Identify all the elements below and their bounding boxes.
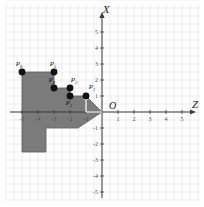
vertex-marker-p1[interactable]	[83, 93, 90, 100]
x-axis-tick-label: -1	[93, 125, 98, 131]
x-axis-tick-label: 4	[95, 45, 98, 51]
vertex-label-subscript: 3	[75, 80, 78, 85]
coordinate-plot: XZ54321-1-2-3-4-5-5-4-3-2-112345OP1P2P3P…	[0, 0, 204, 207]
z-axis-arrowhead	[190, 109, 196, 114]
x-axis-tick-label: 2	[95, 77, 98, 83]
x-axis-tick-label: -4	[93, 173, 98, 179]
x-axis-tick-label: -3	[93, 157, 98, 163]
figure-canvas: XZ54321-1-2-3-4-5-5-4-3-2-112345OP1P2P3P…	[0, 0, 204, 207]
vertex-label-subscript: 1	[93, 87, 95, 92]
z-axis-tick-label: 5	[181, 116, 184, 122]
z-axis-tick-label: -2	[68, 116, 73, 122]
x-axis-tick-label: -5	[93, 189, 98, 195]
z-axis-tick-label: -4	[36, 116, 41, 122]
z-axis-tick-label: 1	[117, 116, 120, 122]
vertex-label-p5: P5	[49, 60, 57, 69]
z-axis-tick-label: 2	[133, 116, 136, 122]
vertex-marker-p6[interactable]	[19, 69, 26, 76]
z-axis-tick-label: -1	[84, 116, 89, 122]
z-axis-label: Z	[192, 98, 199, 110]
vertex-marker-p4[interactable]	[51, 85, 58, 92]
z-axis-tick-label: 3	[149, 116, 152, 122]
x-axis-tick-label: 5	[95, 29, 98, 35]
vertex-label-p3: P3	[70, 76, 78, 85]
vertex-marker-p3[interactable]	[67, 85, 74, 92]
vertex-label-p4: P4	[48, 76, 56, 85]
x-axis-tick-label: -2	[93, 141, 98, 147]
x-axis-label: X	[102, 3, 111, 15]
vertex-label-subscript: 6	[20, 64, 23, 69]
vertex-label-subscript: 4	[53, 80, 56, 85]
vertex-marker-p5[interactable]	[51, 69, 58, 76]
z-axis-tick-label: -3	[52, 116, 57, 122]
origin-label: O	[109, 100, 116, 111]
vertex-label-subscript: 5	[54, 64, 57, 69]
x-axis-tick-label: 3	[95, 61, 98, 67]
x-axis-tick-label: 1	[95, 93, 98, 99]
z-axis-tick-label: 4	[165, 116, 168, 122]
z-axis-tick-label: -5	[20, 116, 25, 122]
